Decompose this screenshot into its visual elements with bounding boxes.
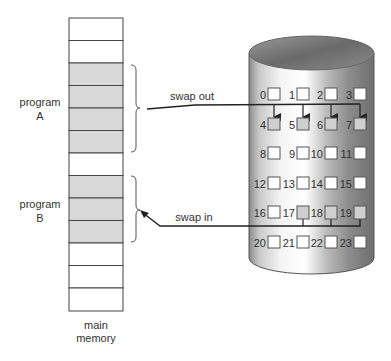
memory-block: [69, 288, 123, 311]
slot-label: 22: [311, 237, 323, 249]
slot-label: 17: [283, 207, 295, 219]
slot-label: 1: [289, 89, 295, 101]
swap-out-label: swap out: [170, 90, 214, 102]
brace-program-a: [131, 65, 140, 152]
disk-slot: [268, 177, 280, 189]
swap-in-label: swap in: [175, 211, 212, 223]
slot-label: 7: [346, 119, 352, 131]
memory-block-program-a: [69, 86, 123, 109]
program-a-label-line1: program: [20, 96, 61, 108]
memory-block: [69, 41, 123, 64]
memory-block-program-b: [69, 221, 123, 244]
memory-block-program-a: [69, 131, 123, 154]
disk-slot: [297, 88, 309, 100]
slot-label: 9: [289, 148, 295, 160]
memory-block: [69, 266, 123, 289]
disk-slot: [354, 88, 366, 100]
disk-slot: [354, 147, 366, 159]
slot-label: 20: [254, 237, 266, 249]
memory-block-program-a: [69, 63, 123, 86]
disk-slot-shaded: [268, 118, 280, 130]
memory-block-program-b: [69, 198, 123, 221]
slot-label: 8: [260, 148, 266, 160]
disk-slot: [354, 177, 366, 189]
program-b-label-line1: program: [20, 198, 61, 210]
slot-label: 2: [317, 89, 323, 101]
disk-slot: [325, 236, 337, 248]
disk-slot: [325, 177, 337, 189]
disk-slot-shaded: [354, 206, 366, 219]
disk-slot: [268, 88, 280, 100]
memory-block: [69, 243, 123, 266]
slot-label: 21: [283, 237, 295, 249]
disk-slot: [268, 147, 280, 159]
disk-slot: [297, 177, 309, 189]
disk-slot: [268, 236, 280, 248]
slot-label: 10: [311, 148, 323, 160]
slot-label: 14: [311, 178, 323, 190]
brace-program-b: [131, 176, 140, 242]
slot-label: 4: [260, 119, 266, 131]
program-a-label-line2: A: [36, 110, 44, 122]
slot-label: 13: [283, 178, 295, 190]
disk-slot-shaded: [325, 118, 337, 130]
slot-label: 19: [340, 207, 352, 219]
slot-label: 18: [311, 207, 323, 219]
slot-label: 6: [317, 119, 323, 131]
disk-slot-shaded: [325, 206, 337, 219]
disk-slot-shaded: [297, 206, 309, 219]
memory-label-line1: main: [84, 319, 108, 331]
disk-slot-shaded: [297, 118, 309, 130]
swapping-diagram: main memory program A program B swap out…: [0, 0, 391, 361]
main-memory: [69, 18, 123, 311]
memory-block-program-b: [69, 176, 123, 199]
disk-slot: [325, 147, 337, 159]
memory-block: [69, 18, 123, 41]
slot-label: 16: [254, 207, 266, 219]
slot-label: 23: [340, 237, 352, 249]
memory-block-program-a: [69, 108, 123, 131]
slot-label: 3: [346, 89, 352, 101]
memory-label-line2: memory: [76, 332, 116, 344]
memory-block: [69, 153, 123, 176]
slot-label: 0: [260, 89, 266, 101]
slot-label: 5: [289, 119, 295, 131]
disk-slot: [354, 236, 366, 248]
slot-label: 11: [341, 148, 352, 160]
disk-slot: [297, 236, 309, 248]
slot-label: 12: [254, 178, 266, 190]
disk-slot: [325, 88, 337, 100]
disk-slot: [297, 147, 309, 159]
disk-slot: [268, 206, 280, 218]
slot-label: 15: [340, 178, 352, 190]
disk-slot-shaded: [354, 118, 366, 130]
program-b-label-line2: B: [36, 212, 43, 224]
